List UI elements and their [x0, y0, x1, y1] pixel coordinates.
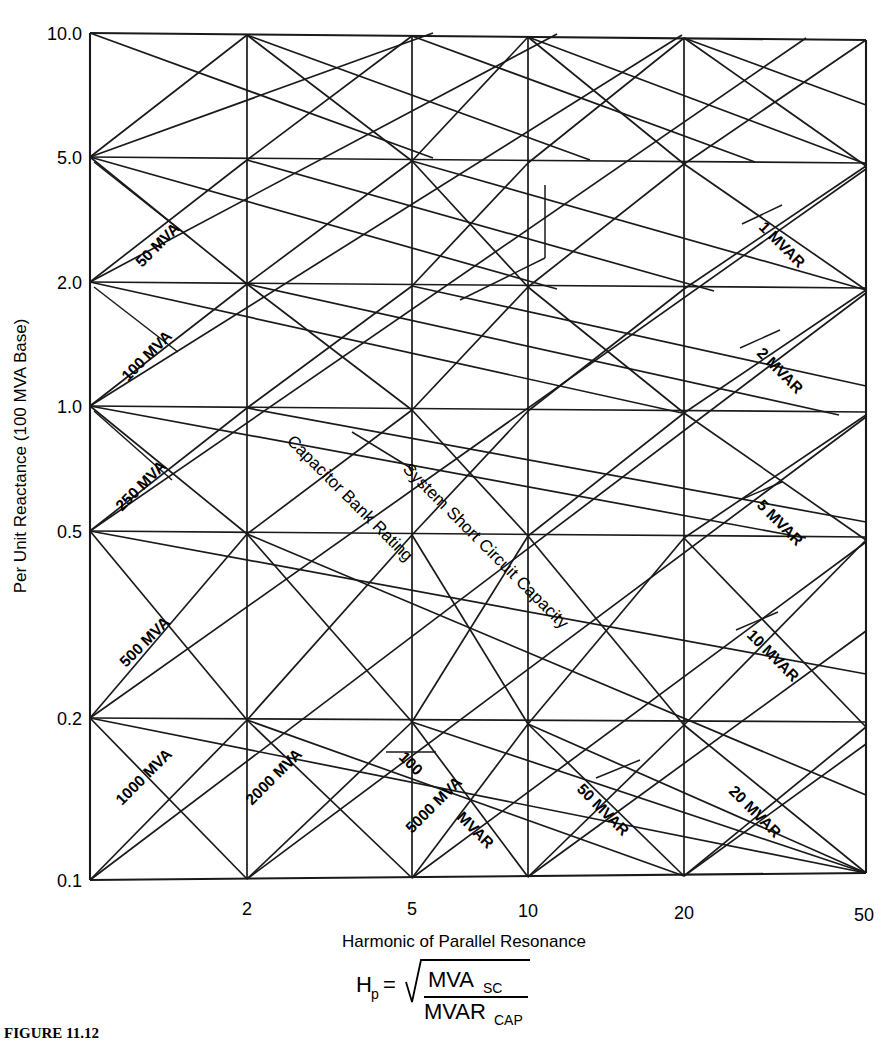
- y-axis-title: Per Unit Reactance (100 MVA Base): [11, 319, 30, 594]
- y-tick-label-1: 0.2: [57, 709, 82, 729]
- figure-container: 10.0 5.0 2.0 1.0 0.5 0.2 0.1 2 5 10 20 5…: [0, 0, 879, 1040]
- formula-numerator: MVA: [428, 967, 474, 992]
- x-tick-label-4: 50: [854, 905, 874, 925]
- y-tick-label-3: 1.0: [57, 397, 82, 417]
- formula-equals: =: [383, 972, 396, 997]
- y-tick-label-6: 10.0: [47, 24, 82, 44]
- y-tick-label-2: 0.5: [57, 522, 82, 542]
- formula-lhs-sub: p: [371, 986, 379, 1002]
- figure-caption: FIGURE 11.12: [4, 1025, 99, 1040]
- y-tick-label-5: 5.0: [57, 148, 82, 168]
- x-tick-label-3: 20: [674, 903, 694, 923]
- y-tick-label-0: 0.1: [57, 871, 82, 891]
- x-tick-label-2: 10: [518, 901, 538, 921]
- formula-denominator: MVAR: [424, 999, 486, 1024]
- chart-background: [0, 0, 879, 1040]
- formula-numerator-sub: SC: [483, 980, 502, 996]
- x-tick-label-1: 5: [407, 899, 417, 919]
- formula-denominator-sub: CAP: [494, 1012, 523, 1028]
- x-tick-label-0: 2: [242, 899, 252, 919]
- nomogram-chart: 10.0 5.0 2.0 1.0 0.5 0.2 0.1 2 5 10 20 5…: [0, 0, 879, 1040]
- formula-lhs: H: [356, 972, 372, 997]
- x-axis-title: Harmonic of Parallel Resonance: [342, 932, 586, 951]
- y-tick-label-4: 2.0: [57, 273, 82, 293]
